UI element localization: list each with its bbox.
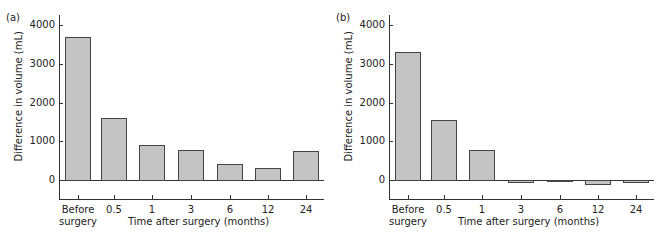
x-axis-line	[59, 199, 324, 200]
x-tick-mark	[521, 195, 522, 199]
y-tick-label: 4000	[21, 19, 55, 30]
bar	[65, 37, 91, 181]
x-tick-mark	[78, 195, 79, 199]
panel-label: (a)	[6, 12, 20, 23]
x-axis-label: Time after surgery (months)	[458, 216, 599, 227]
bar	[585, 180, 611, 185]
x-tick-label: 6	[210, 204, 250, 216]
x-tick-mark	[306, 195, 307, 199]
x-tick-mark	[230, 195, 231, 199]
bar	[395, 52, 421, 181]
x-tick-mark	[114, 195, 115, 199]
chart-panel-b: (b)01000200030004000Difference in volume…	[330, 0, 659, 244]
y-tick-mark	[59, 64, 63, 65]
x-tick-label: Beforesurgery	[58, 204, 98, 228]
bar	[293, 151, 319, 181]
bar	[101, 118, 127, 181]
x-tick-label: 3	[171, 204, 211, 216]
chart-panel-a: (a)01000200030004000Difference in volume…	[0, 0, 330, 244]
x-tick-mark	[560, 195, 561, 199]
bar	[469, 150, 495, 181]
x-tick-label: 1	[462, 204, 502, 216]
y-tick-mark	[59, 141, 63, 142]
x-tick-label: 12	[578, 204, 618, 216]
panel-label: (b)	[336, 12, 350, 23]
y-tick-mark	[59, 180, 63, 181]
bar	[217, 164, 243, 181]
y-tick-label: 0	[351, 174, 385, 185]
y-axis-label: Difference in volume (mL)	[343, 42, 354, 162]
bar	[547, 180, 573, 182]
x-tick-mark	[268, 195, 269, 199]
y-tick-label: 3000	[21, 58, 55, 69]
y-tick-label: 0	[21, 174, 55, 185]
y-tick-mark	[389, 25, 393, 26]
bar	[139, 145, 165, 181]
x-tick-mark	[598, 195, 599, 199]
y-axis-line	[389, 15, 390, 200]
y-tick-label: 2000	[21, 97, 55, 108]
y-tick-mark	[389, 180, 393, 181]
bar	[431, 120, 457, 181]
x-tick-label: Beforesurgery	[388, 204, 428, 228]
x-tick-label: 12	[248, 204, 288, 216]
y-tick-label: 4000	[351, 19, 385, 30]
x-tick-mark	[444, 195, 445, 199]
x-tick-mark	[191, 195, 192, 199]
x-tick-label: 24	[286, 204, 326, 216]
x-tick-label: 24	[616, 204, 656, 216]
y-axis-line	[59, 15, 60, 200]
bar	[508, 180, 534, 183]
x-tick-mark	[482, 195, 483, 199]
bar	[255, 168, 281, 181]
x-tick-label: 0.5	[94, 204, 134, 216]
x-axis-label: Time after surgery (months)	[128, 216, 269, 227]
y-tick-label: 1000	[21, 135, 55, 146]
y-tick-label: 3000	[351, 58, 385, 69]
x-tick-mark	[636, 195, 637, 199]
x-axis-line	[389, 199, 654, 200]
y-tick-mark	[389, 103, 393, 104]
x-tick-label: 6	[540, 204, 580, 216]
x-tick-label: 0.5	[424, 204, 464, 216]
y-tick-mark	[389, 64, 393, 65]
y-tick-label: 2000	[351, 97, 385, 108]
x-tick-label: 3	[501, 204, 541, 216]
x-tick-label: 1	[132, 204, 172, 216]
y-tick-label: 1000	[351, 135, 385, 146]
y-axis-label: Difference in volume (mL)	[13, 42, 24, 162]
x-tick-mark	[152, 195, 153, 199]
y-tick-mark	[389, 141, 393, 142]
x-tick-mark	[408, 195, 409, 199]
y-tick-mark	[59, 103, 63, 104]
y-tick-mark	[59, 25, 63, 26]
bar	[623, 180, 649, 183]
bar	[178, 150, 204, 181]
